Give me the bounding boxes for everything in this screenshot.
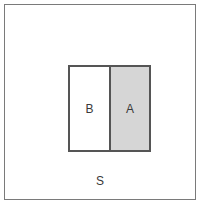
region-a-label: A	[126, 103, 134, 115]
universal-set-rectangle: B A S	[4, 4, 196, 200]
region-b: B	[70, 67, 111, 150]
region-b-label: B	[85, 103, 93, 115]
universal-set-label: S	[5, 175, 195, 187]
region-a-shaded: A	[111, 67, 149, 150]
partitioned-rectangle: B A	[68, 65, 151, 152]
set-diagram-figure: B A S	[0, 0, 203, 209]
